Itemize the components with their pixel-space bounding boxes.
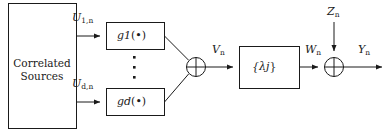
u1-base: U (72, 11, 81, 24)
block-label-g1: g1(•) (117, 30, 146, 41)
wire-g1-to-adder (165, 36, 189, 60)
g1-subscript: 1 (124, 29, 131, 42)
g1-base: g (117, 29, 124, 42)
lambda-open: {λ (252, 60, 266, 73)
signal-label-zn: Zn (327, 6, 339, 18)
block-label-gd: gd(•) (117, 96, 146, 107)
vdot-3 (133, 76, 136, 79)
v-subscript: n (220, 48, 225, 57)
source-label-line1: Correlated (13, 57, 70, 69)
signal-label-yn: Yn (358, 44, 370, 56)
w-base: W (305, 43, 316, 56)
source-label-line2: Sources (21, 70, 64, 82)
g1-argument: (•) (131, 29, 146, 42)
signal-label-vn: Vn (212, 44, 225, 56)
ud-subscript: d,n (81, 82, 93, 91)
w-subscript: n (316, 48, 321, 57)
gd-base: g (117, 95, 124, 108)
y-subscript: n (365, 48, 370, 57)
signal-label-u1n: U1,n (72, 12, 93, 24)
v-base: V (212, 43, 220, 56)
vdot-2 (133, 66, 136, 69)
block-diagram: Correlated Sources g1(•) gd(•) {λj} U1,n… (0, 0, 388, 139)
z-subscript: n (335, 10, 340, 19)
z-base: Z (327, 5, 335, 18)
lambda-close: } (269, 60, 276, 73)
signal-label-wn: Wn (305, 44, 321, 56)
gd-argument: (•) (131, 95, 146, 108)
vdot-1 (133, 56, 136, 59)
u1-subscript: 1,n (81, 16, 93, 25)
wire-gd-to-adder (165, 74, 189, 102)
block-label-correlated-sources: Correlated Sources (8, 57, 76, 83)
signal-label-udn: Ud,n (72, 78, 93, 90)
block-label-lambda: {λj} (252, 61, 276, 72)
ud-base: U (72, 77, 81, 90)
